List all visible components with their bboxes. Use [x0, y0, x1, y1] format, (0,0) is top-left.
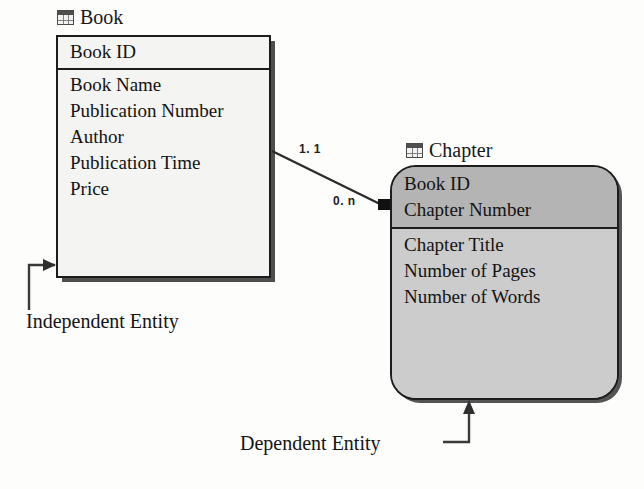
- entity-box-chapter[interactable]: Book ID Chapter Number Chapter Title Num…: [390, 165, 619, 400]
- dependent-entity-leader-line: [443, 406, 469, 442]
- attribute-row: Book ID: [392, 171, 617, 197]
- entity-name-chapter: Chapter: [429, 139, 492, 161]
- entity-key-section-chapter: Book ID Chapter Number: [392, 167, 617, 229]
- cardinality-label-child: 0. n: [333, 194, 356, 208]
- entity-box-book[interactable]: Book ID Book Name Publication Number Aut…: [56, 35, 271, 278]
- entity-title-book: Book: [57, 6, 123, 28]
- attribute-row: Chapter Title: [392, 232, 617, 258]
- relationship-terminator-dot: [378, 199, 390, 210]
- relationship-line: [272, 151, 382, 205]
- cardinality-label-parent: 1. 1: [299, 142, 321, 156]
- dependent-entity-arrowhead: [463, 400, 475, 414]
- table-icon: [57, 10, 74, 25]
- independent-entity-leader-line: [29, 265, 55, 310]
- attribute-row: Chapter Number: [392, 197, 617, 223]
- attribute-row: Book Name: [58, 72, 269, 98]
- entity-title-chapter: Chapter: [406, 139, 492, 161]
- attribute-row: Price: [58, 176, 269, 202]
- attribute-row: Number of Words: [392, 284, 617, 310]
- annotation-independent-entity: Independent Entity: [26, 310, 179, 332]
- independent-entity-arrowhead: [43, 259, 56, 271]
- er-diagram-canvas: Book Book ID Book Name Publication Numbe…: [0, 0, 644, 489]
- attribute-row: Author: [58, 124, 269, 150]
- entity-key-section-book: Book ID: [58, 37, 269, 70]
- attribute-row: Book ID: [58, 39, 269, 65]
- annotation-dependent-entity: Dependent Entity: [240, 432, 381, 454]
- attribute-row: Number of Pages: [392, 258, 617, 284]
- entity-attribute-section-book: Book Name Publication Number Author Publ…: [58, 70, 269, 202]
- attribute-row: Publication Number: [58, 98, 269, 124]
- entity-name-book: Book: [80, 6, 123, 28]
- attribute-row: Publication Time: [58, 150, 269, 176]
- table-icon: [406, 143, 423, 158]
- entity-attribute-section-chapter: Chapter Title Number of Pages Number of …: [392, 229, 617, 400]
